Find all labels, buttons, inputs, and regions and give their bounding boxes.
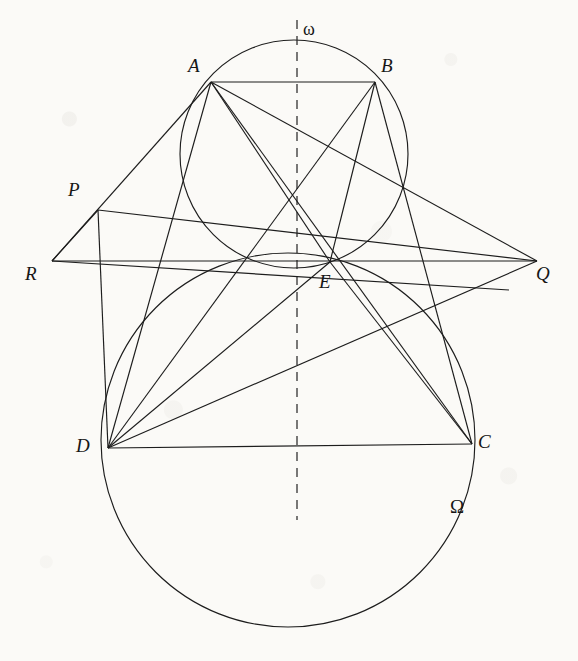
segment-DC bbox=[108, 444, 472, 448]
segment-PQ bbox=[98, 210, 537, 261]
label-point-Q: Q bbox=[536, 264, 550, 283]
label-point-C: C bbox=[478, 432, 491, 451]
circle-omega bbox=[180, 40, 408, 268]
segment-AC bbox=[211, 82, 472, 444]
segment-CE bbox=[330, 262, 472, 444]
label-circle-omega: ω bbox=[303, 20, 315, 38]
label-point-B: B bbox=[381, 56, 393, 75]
label-point-A: A bbox=[188, 56, 200, 75]
segment-QA bbox=[211, 82, 537, 261]
label-point-R: R bbox=[25, 264, 37, 283]
segment-R-to-lower-right bbox=[52, 261, 509, 290]
circle-Omega bbox=[101, 253, 475, 627]
segment-BD bbox=[108, 82, 375, 448]
label-point-E: E bbox=[319, 272, 331, 291]
segment-BE bbox=[330, 82, 375, 262]
geometry-figure: A B C D E P Q R ω Ω bbox=[0, 0, 578, 661]
label-point-D: D bbox=[76, 436, 90, 455]
label-circle-Omega: Ω bbox=[450, 497, 464, 516]
segment-RA bbox=[52, 82, 211, 261]
figure-canvas bbox=[0, 0, 578, 661]
label-point-P: P bbox=[68, 180, 80, 199]
segment-BC bbox=[375, 82, 472, 444]
